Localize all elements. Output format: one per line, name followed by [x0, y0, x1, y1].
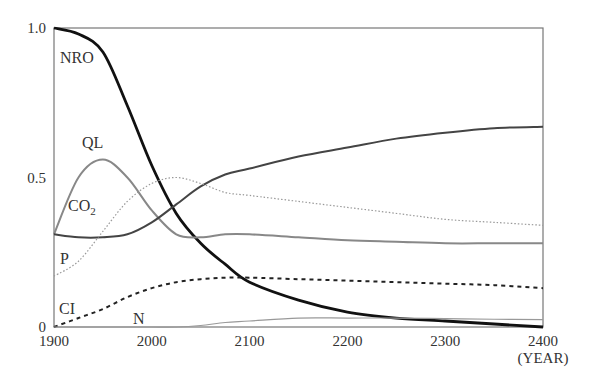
chart: 00.51.0 190020002100220023002400 NRO QL … [0, 0, 589, 390]
label-ql: QL [82, 134, 103, 151]
label-co2-main: CO [68, 197, 90, 214]
y-tick-label: 1.0 [27, 20, 46, 36]
x-tick-label: 1900 [39, 333, 69, 349]
x-tick-label: 2400 [528, 333, 558, 349]
x-axis-ticks: 190020002100220023002400 [39, 333, 558, 349]
label-p: P [60, 250, 69, 267]
series-line-p [54, 178, 543, 277]
label-nro: NRO [60, 49, 94, 66]
y-tick-label: 0.5 [27, 170, 46, 186]
series-line-ci [54, 277, 543, 327]
label-n: N [133, 310, 145, 327]
x-axis-unit-label: (YEAR) [518, 350, 569, 367]
label-co2: CO2 [68, 197, 96, 217]
label-co2-sub: 2 [90, 205, 96, 217]
y-axis-ticks: 00.51.0 [27, 20, 46, 335]
x-tick-label: 2300 [430, 333, 460, 349]
series-lines [54, 28, 543, 327]
x-tick-label: 2100 [235, 333, 265, 349]
x-tick-label: 2000 [137, 333, 167, 349]
x-tick-label: 2200 [332, 333, 362, 349]
label-ci: CI [59, 300, 75, 317]
